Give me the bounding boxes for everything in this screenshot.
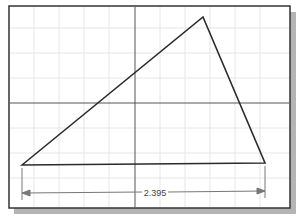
cad-viewport[interactable]: 2.395: [0, 0, 298, 220]
dimension-label: 2.395: [144, 188, 167, 198]
